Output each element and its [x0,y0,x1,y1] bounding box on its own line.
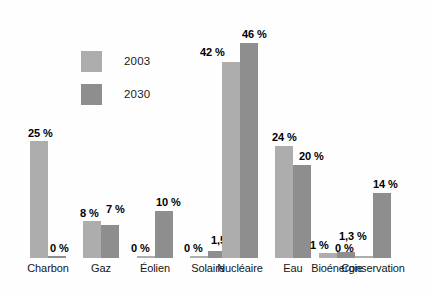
bar-gaz-2003 [83,221,101,258]
value-label-nucléaire-2003: 42 % [200,46,225,58]
bar-group: 0 %10 % [137,0,173,291]
bar-nucléaire-2003 [222,62,240,258]
bar-group: 0 %14 % [355,0,391,291]
bar-éolien-2003 [137,256,155,258]
value-label-charbon-2030: 0 % [50,242,69,254]
bar-group: 25 %0 % [30,0,66,291]
bar-group: 24 %20 % [275,0,311,291]
bar-chart: 2003 2030 25 %0 %Charbon8 %7 %Gaz0 %10 %… [0,0,431,291]
bar-eau-2030 [293,165,311,258]
value-label-gaz-2030: 7 % [106,203,125,215]
value-label-éolien-2003: 0 % [131,242,150,254]
value-label-conservation-2030: 14 % [373,178,398,190]
bar-group: 42 %46 % [222,0,258,291]
value-label-éolien-2030: 10 % [156,196,181,208]
value-label-gaz-2003: 8 % [80,207,99,219]
bar-nucléaire-2030 [240,43,258,258]
category-label-conservation: Conservation [328,262,418,274]
bar-conservation-2003 [355,256,373,258]
value-label-charbon-2003: 25 % [28,127,53,139]
plot-area: 25 %0 %Charbon8 %7 %Gaz0 %10 %Éolien0 %1… [0,0,431,291]
bar-charbon-2030 [48,256,66,258]
bar-charbon-2003 [30,141,48,258]
value-label-nucléaire-2030: 46 % [242,28,267,40]
value-label-conservation-2003: 0 % [335,242,354,254]
bar-group: 8 %7 % [83,0,119,291]
bar-eau-2003 [275,146,293,258]
bar-bioénergie-2003 [319,253,337,258]
value-label-bioénergie-2003: 1 % [310,239,329,251]
value-label-eau-2003: 24 % [272,131,297,143]
bar-solaire-2003 [190,256,208,258]
bar-gaz-2030 [101,225,119,258]
bar-group: 0 %1,5 % [190,0,226,291]
bar-conservation-2030 [373,193,391,258]
bar-éolien-2030 [155,211,173,258]
value-label-solaire-2003: 0 % [184,242,203,254]
